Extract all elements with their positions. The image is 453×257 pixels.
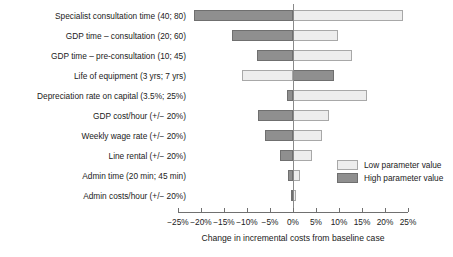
- x-axis-tick-label: 25%: [388, 217, 428, 227]
- x-axis-tick: [224, 208, 225, 212]
- legend-label-low: Low parameter value: [364, 160, 441, 170]
- x-axis-tick: [385, 208, 386, 212]
- x-axis-tick: [316, 208, 317, 212]
- bar-segment-low: [293, 150, 312, 161]
- x-axis-tick: [247, 208, 248, 212]
- chart-legend: Low parameter value High parameter value: [337, 158, 443, 184]
- x-axis-tick: [201, 208, 202, 212]
- bar-segment-low: [293, 30, 338, 41]
- tornado-chart: Specialist consultation time (40; 80)GDP…: [0, 0, 453, 257]
- bar-segment-high: [194, 10, 293, 21]
- legend-label-high: High parameter value: [364, 173, 443, 183]
- bar-segment-low: [293, 170, 300, 181]
- x-axis-tick: [408, 208, 409, 212]
- bar-segment-high: [265, 130, 293, 141]
- bar-segment-high: [293, 70, 334, 81]
- x-axis-line: [178, 212, 408, 213]
- legend-swatch-high-icon: [337, 173, 358, 183]
- bar-segment-high: [280, 150, 293, 161]
- x-axis-title: Change in incremental costs from baselin…: [178, 233, 408, 244]
- bar-segment-low: [293, 50, 352, 61]
- x-axis-tick: [270, 208, 271, 212]
- x-axis-tick: [339, 208, 340, 212]
- legend-swatch-low-icon: [337, 160, 358, 170]
- legend-item-high: High parameter value: [337, 171, 443, 184]
- bar-segment-low: [293, 130, 322, 141]
- zero-reference-line: [293, 4, 294, 208]
- bar-segment-low: [293, 90, 367, 101]
- bar-segment-low: [293, 110, 329, 121]
- x-axis-tick: [293, 208, 294, 212]
- bar-segment-high: [257, 50, 293, 61]
- x-axis-tick: [362, 208, 363, 212]
- legend-item-low: Low parameter value: [337, 158, 443, 171]
- bar-segment-high: [232, 30, 293, 41]
- bar-segment-low: [242, 70, 293, 81]
- x-axis-tick: [178, 208, 179, 212]
- bar-segment-low: [293, 10, 403, 21]
- bar-segment-high: [258, 110, 293, 121]
